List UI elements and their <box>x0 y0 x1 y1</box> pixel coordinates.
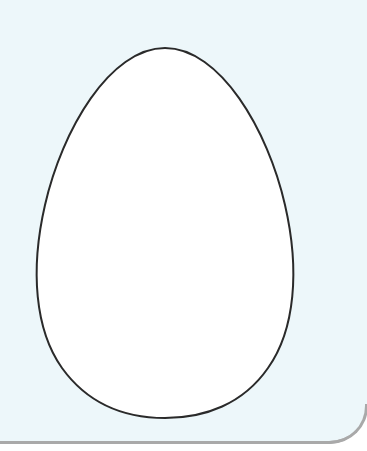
egg-outline-icon <box>0 0 367 451</box>
